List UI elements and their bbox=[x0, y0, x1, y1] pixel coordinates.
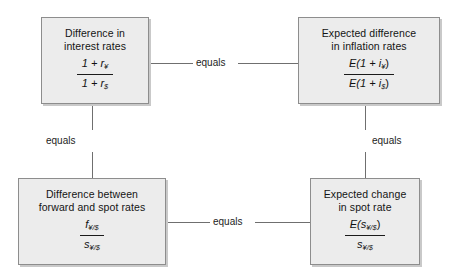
node-inflation-rates[interactable]: Expected difference in inflation rates E… bbox=[298, 17, 440, 104]
node-forward-spot-rates-formula: f¥/$ s¥/$ bbox=[79, 217, 105, 255]
connector-right-vertical-bottom-segment bbox=[365, 152, 366, 178]
formula-denominator: s¥/$ bbox=[79, 236, 105, 255]
numerator-tail: ) bbox=[377, 218, 381, 230]
connector-top-horizontal-right-segment bbox=[238, 63, 298, 64]
parity-diagram: equals equals equals equals Difference i… bbox=[0, 0, 452, 277]
node-forward-spot-rates-title: Difference between forward and spot rate… bbox=[39, 188, 146, 214]
denominator-tail: ) bbox=[385, 77, 389, 89]
denominator-subscript: ¥/$ bbox=[363, 243, 373, 252]
node-inflation-rates-formula: E(1 + i¥) E(1 + i$) bbox=[344, 56, 394, 94]
node-expected-spot-rate-formula: E(s¥/$) s¥/$ bbox=[345, 217, 386, 255]
node-interest-rates-formula: 1 + r¥ 1 + r$ bbox=[77, 56, 114, 94]
connector-bottom-horizontal-right-segment bbox=[255, 222, 310, 223]
connector-label-left: equals bbox=[44, 135, 77, 147]
formula-numerator: f¥/$ bbox=[80, 217, 104, 236]
denominator-subscript: ¥/$ bbox=[90, 243, 100, 252]
denominator-text: 1 + r bbox=[82, 77, 104, 89]
node-inflation-rates-title: Expected difference in inflation rates bbox=[322, 27, 417, 53]
denominator-text: E(1 + i bbox=[349, 77, 381, 89]
connector-label-bottom: equals bbox=[211, 216, 244, 228]
formula-numerator: E(1 + i¥) bbox=[344, 56, 394, 75]
connector-label-top: equals bbox=[194, 57, 227, 69]
numerator-text: E(s bbox=[350, 218, 367, 230]
denominator-subscript: $ bbox=[104, 82, 108, 91]
numerator-subscript: ¥ bbox=[104, 62, 108, 71]
formula-denominator: E(1 + i$) bbox=[344, 75, 394, 94]
node-interest-rates[interactable]: Difference in interest rates 1 + r¥ 1 + … bbox=[41, 17, 149, 104]
numerator-text: E(1 + i bbox=[349, 57, 381, 69]
connector-label-right: equals bbox=[370, 135, 403, 147]
node-expected-spot-rate[interactable]: Expected change in spot rate E(s¥/$) s¥/… bbox=[310, 178, 420, 265]
node-interest-rates-title: Difference in interest rates bbox=[64, 27, 126, 53]
numerator-subscript: ¥/$ bbox=[88, 223, 98, 232]
node-forward-spot-rates[interactable]: Difference between forward and spot rate… bbox=[18, 178, 166, 265]
formula-numerator: 1 + r¥ bbox=[77, 56, 114, 75]
connector-right-vertical-top-segment bbox=[365, 104, 366, 130]
numerator-subscript: ¥/$ bbox=[366, 223, 376, 232]
connector-left-vertical-bottom-segment bbox=[92, 152, 93, 178]
formula-numerator: E(s¥/$) bbox=[345, 217, 386, 236]
formula-denominator: s¥/$ bbox=[352, 236, 378, 255]
formula-denominator: 1 + r$ bbox=[77, 75, 114, 94]
numerator-text: 1 + r bbox=[82, 57, 104, 69]
numerator-tail: ) bbox=[385, 57, 389, 69]
connector-top-horizontal-left-segment bbox=[149, 63, 193, 64]
node-expected-spot-rate-title: Expected change in spot rate bbox=[324, 188, 407, 214]
connector-bottom-horizontal-left-segment bbox=[166, 222, 210, 223]
connector-left-vertical-top-segment bbox=[92, 104, 93, 130]
